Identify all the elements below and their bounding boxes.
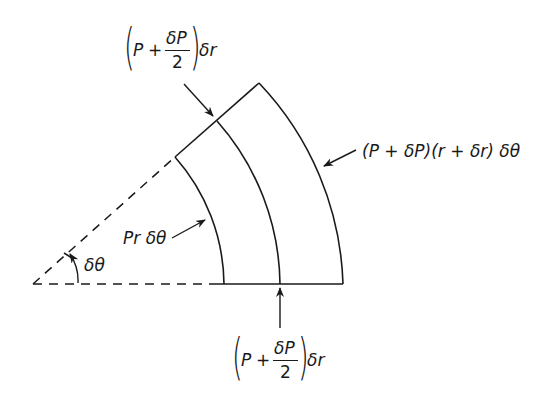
fraction-numerator: δP: [166, 30, 187, 47]
fraction-numerator: δP: [274, 340, 295, 357]
fraction-denominator: 2: [172, 54, 183, 71]
inner-arc-arrow: [172, 220, 205, 238]
outer-arc: [259, 83, 343, 284]
angle-label: δθ: [84, 257, 105, 274]
fraction-denominator: 2: [280, 364, 291, 381]
bottom-edge-force-label: ( P + δP 2 ) δr: [232, 330, 332, 392]
plus-sign: +: [256, 352, 270, 369]
pressure-symbol: P: [133, 42, 143, 59]
top-edge-force-label: ( P + δP 2 ) δr: [124, 20, 224, 82]
delta-r: δr: [307, 352, 324, 369]
top-edge-arrow: [184, 84, 213, 116]
outer-arc-force-label: (P + δP)(r + δr) δθ: [362, 143, 520, 160]
outer-arc-arrow: [324, 150, 356, 166]
plus-sign: +: [148, 42, 162, 59]
inner-arc: [175, 157, 224, 284]
pressure-symbol: P: [241, 352, 251, 369]
middle-arc: [217, 121, 280, 284]
top-edge: [175, 83, 259, 157]
inner-arc-force-label: Pr δθ: [123, 230, 166, 247]
delta-r: δr: [199, 42, 216, 59]
